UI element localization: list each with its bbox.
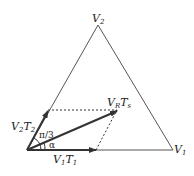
angle-pi3-label: π/3 — [39, 130, 54, 140]
vertex-v2-label: V2 — [92, 12, 105, 26]
v1t1-label: V1T1 — [53, 153, 77, 167]
angle-alpha-label: α — [49, 140, 55, 150]
svm-vector-diagram: V2 V1 VRTs V2T2 V1T1 π/3 α — [0, 0, 194, 176]
vertex-v1-label: V1 — [174, 143, 186, 157]
vrts-label: VRTs — [107, 96, 132, 110]
angle-arc-alpha — [44, 143, 45, 150]
v2t2-label: V2T2 — [11, 120, 36, 134]
